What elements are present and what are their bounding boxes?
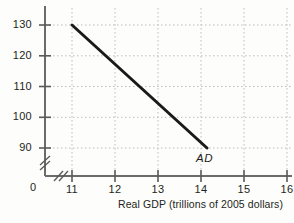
origin-label: 0 <box>26 181 40 193</box>
x-axis-title: Real GDP (trillions of 2005 dollars) <box>118 198 294 210</box>
y-tick-label: 130 <box>2 18 32 30</box>
vertical-gridlines <box>72 8 287 176</box>
x-tick-label: 11 <box>61 183 83 195</box>
x-tick-label: 14 <box>190 183 212 195</box>
y-tick-label: 120 <box>2 49 32 61</box>
ad-curve-label: AD <box>196 152 213 164</box>
ad-curve <box>72 25 207 148</box>
x-tick-label: 12 <box>104 183 126 195</box>
y-tick-label: 110 <box>2 80 32 92</box>
horizontal-gridlines <box>45 25 292 148</box>
x-tick-label: 13 <box>147 183 169 195</box>
y-tick-label: 90 <box>2 141 32 153</box>
x-tick-label: 16 <box>276 183 294 195</box>
x-tick-label: 15 <box>233 183 255 195</box>
y-tick-label: 100 <box>2 110 32 122</box>
chart-container: 130 120 110 100 90 11 12 13 14 15 16 0 A… <box>0 0 294 223</box>
